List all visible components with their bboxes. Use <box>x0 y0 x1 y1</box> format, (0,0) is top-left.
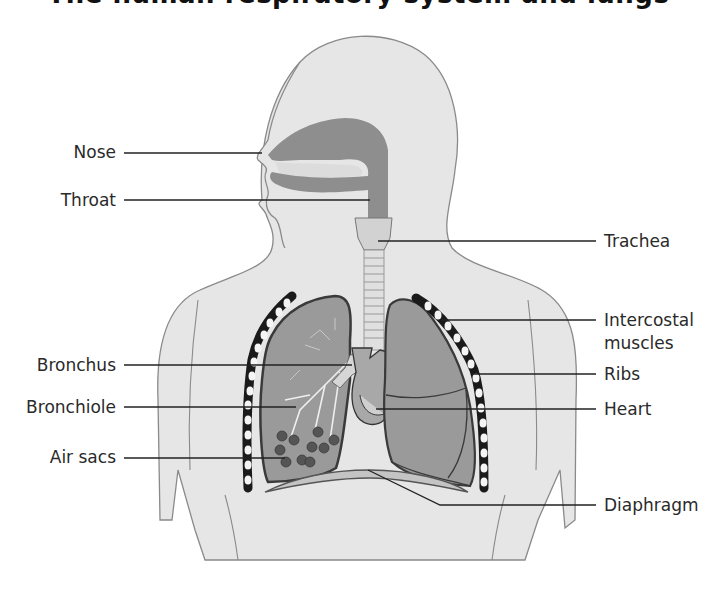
label-intercostal-line2: muscles <box>604 333 674 353</box>
label-throat: Throat <box>61 190 116 210</box>
label-intercostal-line1: Intercostal <box>604 310 694 330</box>
label-ribs: Ribs <box>604 364 640 384</box>
label-trachea: Trachea <box>604 231 670 251</box>
label-bronchiole: Bronchiole <box>26 397 116 417</box>
label-heart: Heart <box>604 399 651 419</box>
label-nose: Nose <box>74 142 116 162</box>
label-bronchus: Bronchus <box>37 355 116 375</box>
label-air-sacs: Air sacs <box>50 447 116 467</box>
label-diaphragm: Diaphragm <box>604 495 699 515</box>
